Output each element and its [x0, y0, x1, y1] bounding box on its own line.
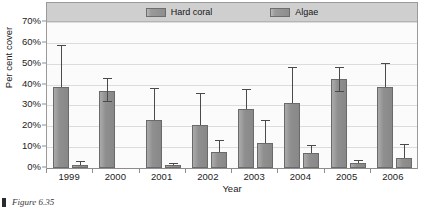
- x-axis-tick-label: 1999: [59, 172, 80, 182]
- error-bar-cap: [400, 144, 409, 145]
- error-bar-line: [61, 45, 62, 87]
- x-axis-title: Year: [46, 183, 418, 194]
- bar-hard-coral[interactable]: [377, 87, 393, 168]
- error-bar-cap: [76, 161, 85, 162]
- legend-swatch-icon: [146, 8, 166, 17]
- error-bar-line: [200, 93, 201, 125]
- error-bar-line: [311, 145, 312, 153]
- x-axis-tick-mark: [370, 169, 371, 173]
- bar-group: [186, 22, 232, 168]
- y-axis-tick-label: 60%: [22, 37, 41, 47]
- bar-hard-coral[interactable]: [146, 120, 162, 168]
- x-axis-tick-mark: [231, 169, 232, 173]
- legend-item-hard-coral[interactable]: Hard coral: [146, 8, 213, 17]
- error-bar-line: [107, 78, 108, 101]
- bar-group: [371, 22, 417, 168]
- x-axis-tick-mark: [46, 169, 47, 173]
- error-bar-cap: [381, 63, 390, 64]
- bar-group: [93, 22, 139, 168]
- x-axis: 19992000200120022003200420052006: [46, 170, 418, 183]
- bar-algae[interactable]: [350, 163, 366, 168]
- error-bar-line: [385, 63, 386, 87]
- error-bar-cap: [57, 45, 66, 46]
- bar-hard-coral[interactable]: [192, 125, 208, 168]
- x-axis-tick-mark: [324, 169, 325, 173]
- x-axis-tick-label: 2006: [382, 172, 403, 182]
- y-axis-tick-label: 30%: [22, 100, 41, 110]
- error-bar-cap: [169, 163, 178, 164]
- y-axis-tick-label: 70%: [22, 16, 41, 26]
- legend-item-label: Hard coral: [171, 8, 213, 17]
- error-bar-line: [154, 88, 155, 120]
- legend-item-label: Algae: [295, 8, 318, 17]
- gridline: [47, 168, 417, 169]
- x-axis-tick-mark: [139, 169, 140, 173]
- error-bar-line: [339, 67, 340, 91]
- error-bar-cap: [196, 93, 205, 94]
- error-bar-cap: [261, 120, 270, 121]
- error-bar-cap: [215, 140, 224, 141]
- chart-legend: Hard coral Algae: [47, 3, 417, 22]
- bar-algae[interactable]: [72, 165, 88, 168]
- x-axis-tick-label: 2002: [197, 172, 218, 182]
- error-bar-cap: [242, 89, 251, 90]
- caption-bullet-icon: [2, 198, 6, 207]
- error-bar-line: [292, 67, 293, 104]
- bar-algae[interactable]: [396, 158, 412, 168]
- bar-algae[interactable]: [257, 143, 273, 168]
- x-axis-tick-mark: [92, 169, 93, 173]
- y-axis-tick-label: 0%: [27, 162, 41, 172]
- error-bar-line: [404, 144, 405, 158]
- bar-group: [325, 22, 371, 168]
- error-bar-line: [246, 89, 247, 109]
- x-axis-tick-label: 2003: [244, 172, 265, 182]
- bar-hard-coral[interactable]: [238, 109, 254, 168]
- bar-algae[interactable]: [165, 165, 181, 168]
- figure-container: 0%10%20%30%40%50%60%70% Per cent cover H…: [0, 0, 422, 211]
- y-axis-tick-label: 20%: [22, 121, 41, 131]
- x-axis-tick-label: 2000: [105, 172, 126, 182]
- error-bar-cap: [150, 88, 159, 89]
- x-axis-tick-label: 2004: [290, 172, 311, 182]
- legend-item-algae[interactable]: Algae: [270, 8, 318, 17]
- error-bar-cap: [335, 91, 344, 92]
- bar-hard-coral[interactable]: [53, 87, 69, 168]
- error-bar-cap: [354, 160, 363, 161]
- x-axis-tick-mark: [185, 169, 186, 173]
- figure-caption: Figure 6.35: [2, 197, 54, 207]
- bar-group: [232, 22, 278, 168]
- error-bar-cap: [103, 78, 112, 79]
- error-bar-cap: [307, 145, 316, 146]
- y-axis-tick-label: 50%: [22, 58, 41, 68]
- y-axis-tick-label: 40%: [22, 79, 41, 89]
- bar-algae[interactable]: [211, 152, 227, 168]
- x-axis-tick-label: 2005: [336, 172, 357, 182]
- bar-group: [140, 22, 186, 168]
- error-bar-cap: [103, 101, 112, 102]
- y-axis-title: Per cent cover: [3, 6, 14, 110]
- bar-hard-coral[interactable]: [284, 103, 300, 168]
- error-bar-line: [219, 140, 220, 153]
- plot-area: [47, 22, 417, 168]
- error-bar-cap: [288, 67, 297, 68]
- error-bar-line: [265, 120, 266, 143]
- chart-plot-frame: Hard coral Algae: [46, 2, 418, 169]
- caption-text: Figure 6.35: [12, 197, 54, 207]
- bar-group: [47, 22, 93, 168]
- x-axis-tick-label: 2001: [151, 172, 172, 182]
- bar-algae[interactable]: [303, 153, 319, 168]
- bar-hard-coral[interactable]: [99, 91, 115, 168]
- bar-group: [278, 22, 324, 168]
- error-bar-cap: [335, 67, 344, 68]
- legend-swatch-icon: [270, 8, 290, 17]
- x-axis-tick-mark: [277, 169, 278, 173]
- y-axis-tick-label: 10%: [22, 141, 41, 151]
- bar-hard-coral[interactable]: [331, 79, 347, 168]
